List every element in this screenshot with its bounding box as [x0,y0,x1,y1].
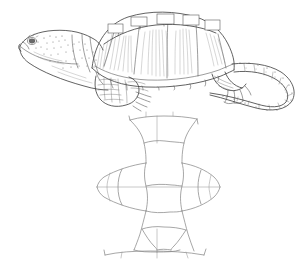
plastron-ventral-diagram [97,112,220,258]
foreclaw [133,92,151,111]
marginal-scutes [95,64,233,90]
head [19,30,108,90]
forelimb [95,76,151,111]
carapace [92,12,234,90]
turtle-lateral-view [19,12,294,111]
illustration-plate [0,0,308,274]
gular-scutes [129,112,198,143]
tail [210,62,294,110]
tail-crest [222,62,292,110]
vertebral-scutes [104,14,220,44]
eye [27,34,38,45]
humeral-scutes [130,119,197,163]
anal-scutes [142,229,186,250]
carapace-hatching [97,29,225,76]
posterior-edge [104,249,206,258]
turtle-plate-svg [0,0,308,274]
